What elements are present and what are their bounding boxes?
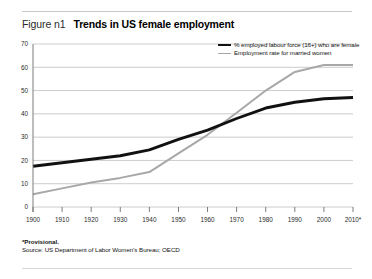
figure-number: Figure n1 [22, 18, 65, 30]
x-axis-ticks [33, 207, 353, 212]
y-tick-label: 50 [21, 87, 29, 94]
x-tick-label: 2010* [345, 216, 362, 222]
y-tick-label: 30 [21, 133, 29, 140]
footnote-block: *Provisional. Source: US Department of L… [22, 238, 180, 254]
x-axis-labels: 1900191019201930194019501960197019801990… [26, 216, 362, 222]
series-line-female-share [33, 98, 353, 167]
y-tick-label: 60 [21, 64, 29, 71]
y-tick-label: 10 [21, 180, 29, 187]
data-series [33, 65, 353, 194]
x-tick-label: 1970 [230, 216, 245, 222]
legend-label-married-women: Employment rate for married women [234, 50, 331, 56]
footnote-source: Source: US Department of Labor Women's B… [22, 246, 180, 254]
x-tick-label: 1950 [171, 216, 186, 222]
figure-title-row: Figure n1 Trends in US female employment [22, 18, 234, 30]
chart-legend: % employed labour force (16+) who are fe… [218, 42, 359, 56]
x-tick-label: 1960 [200, 216, 215, 222]
legend-swatch-grey-icon [218, 53, 231, 54]
y-tick-label: 20 [21, 157, 29, 164]
page-title: Trends in US female employment [73, 18, 234, 30]
x-tick-label: 1930 [113, 216, 128, 222]
legend-label-female-share: % employed labour force (16+) who are fe… [234, 42, 359, 48]
legend-item-married-women: Employment rate for married women [218, 50, 359, 56]
x-tick-label: 1920 [84, 216, 99, 222]
bottom-divider [22, 268, 352, 269]
legend-swatch-black-icon [218, 44, 231, 46]
y-tick-label: 0 [24, 203, 28, 210]
series-line-married-women [33, 65, 353, 194]
x-tick-label: 1990 [288, 216, 303, 222]
top-divider [22, 11, 352, 12]
x-tick-label: 1910 [55, 216, 70, 222]
y-axis-labels: 010203040506070 [21, 40, 29, 210]
footnote-provisional: *Provisional. [22, 238, 180, 246]
x-tick-label: 1900 [26, 216, 41, 222]
gridlines [33, 44, 353, 207]
x-tick-label: 2000 [317, 216, 332, 222]
y-tick-label: 70 [21, 40, 29, 47]
figure-container: Figure n1 Trends in US female employment… [0, 0, 372, 279]
x-tick-label: 1940 [142, 216, 157, 222]
line-chart: 010203040506070 190019101920193019401950… [0, 40, 372, 222]
legend-item-female-share: % employed labour force (16+) who are fe… [218, 42, 359, 48]
y-tick-label: 40 [21, 110, 29, 117]
chart-plot-area: 010203040506070 190019101920193019401950… [0, 40, 372, 222]
x-tick-label: 1980 [259, 216, 274, 222]
